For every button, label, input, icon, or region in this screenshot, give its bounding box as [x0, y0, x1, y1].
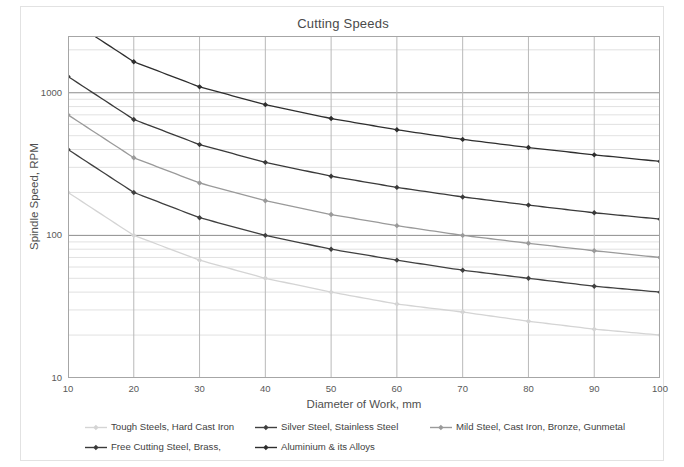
legend-item[interactable]: Aluminium & its Alloys: [255, 442, 375, 452]
legend-label: Tough Steels, Hard Cast Iron: [111, 422, 234, 432]
legend-label: Aluminium & its Alloys: [281, 442, 375, 452]
legend-marker-icon: [85, 443, 107, 452]
x-tick-label: 20: [114, 383, 154, 394]
legend-marker-icon: [85, 423, 107, 432]
y-tick-label: 1000: [18, 87, 62, 98]
x-axis-title: Diameter of Work, mm: [68, 398, 660, 410]
plot-area: [68, 36, 660, 378]
legend-marker-icon: [255, 423, 277, 432]
x-tick-label: 90: [574, 383, 614, 394]
y-tick-label: 100: [18, 229, 62, 240]
legend-item[interactable]: Free Cutting Steel, Brass,: [85, 442, 221, 452]
y-tick-label: 10: [18, 372, 62, 383]
legend-item[interactable]: Silver Steel, Stainless Steel: [255, 422, 398, 432]
chart-title: Cutting Speeds: [21, 16, 665, 31]
legend-label: Free Cutting Steel, Brass,: [111, 442, 221, 452]
legend-label: Silver Steel, Stainless Steel: [281, 422, 398, 432]
legend-item[interactable]: Mild Steel, Cast Iron, Bronze, Gunmetal: [430, 422, 625, 432]
x-tick-label: 70: [443, 383, 483, 394]
x-tick-label: 30: [180, 383, 220, 394]
chart-legend: Tough Steels, Hard Cast IronSilver Steel…: [30, 420, 664, 460]
chart-screenshot: Cutting Speeds Spindle Speed, RPM 101001…: [0, 0, 684, 467]
legend-item[interactable]: Tough Steels, Hard Cast Iron: [85, 422, 234, 432]
x-tick-label: 80: [508, 383, 548, 394]
legend-marker-icon: [430, 423, 452, 432]
x-tick-label: 40: [245, 383, 285, 394]
x-tick-label: 100: [640, 383, 680, 394]
x-tick-label: 50: [311, 383, 351, 394]
plot-frame: [68, 36, 660, 378]
legend-label: Mild Steel, Cast Iron, Bronze, Gunmetal: [456, 422, 625, 432]
x-tick-label: 10: [48, 383, 88, 394]
legend-marker-icon: [255, 443, 277, 452]
x-tick-label: 60: [377, 383, 417, 394]
